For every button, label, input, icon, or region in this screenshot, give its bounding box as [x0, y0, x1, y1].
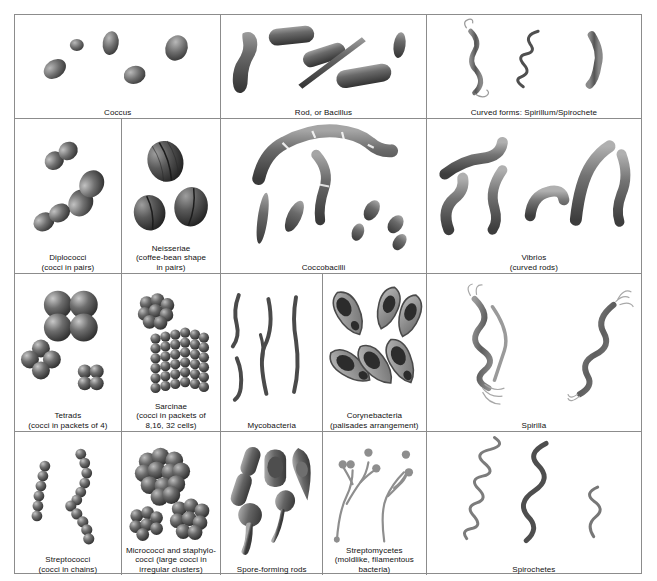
cell-spirochetes[interactable]: Spirochetes — [426, 432, 641, 575]
cell-coccobacilli[interactable]: Coccobacilli — [220, 119, 425, 273]
cell-coccus[interactable]: Coccus — [15, 15, 220, 118]
cell-label-tetrads: Tetrads (cocci in packets of 4) — [16, 411, 120, 430]
cell-streptomycetes[interactable]: Streptomycetes (moldlike, filamentous ba… — [322, 432, 426, 575]
cell-streptococci[interactable]: Streptococci (cocci in chains) — [15, 432, 121, 575]
cell-label-neisseriae: Neisseriae (coffee-bean shape in pairs) — [123, 244, 220, 272]
art-spore-rods — [221, 432, 322, 559]
cell-diplococci[interactable]: Diplococci (cocci in pairs) — [15, 119, 121, 273]
cell-label-diplococci: Diplococci (cocci in pairs) — [16, 253, 120, 272]
bacterial-morphology-chart: Coccus Rod, or Bacillu — [14, 14, 642, 574]
cell-label-micrococci: Micrococci and staphylo- cocci (large co… — [123, 546, 220, 574]
cell-label-streptococci: Streptococci (cocci in chains) — [16, 555, 120, 574]
art-curved-forms — [427, 15, 641, 102]
cell-label-spirilla: Spirilla — [428, 421, 640, 430]
art-streptomycetes — [323, 432, 426, 559]
chart-row-3: Tetrads (cocci in packets of 4) — [15, 273, 641, 431]
cell-mycobacteria[interactable]: Mycobacteria — [220, 274, 322, 431]
art-mycobacteria — [221, 274, 322, 415]
cell-label-coccus: Coccus — [16, 108, 219, 117]
art-sarcinae — [122, 274, 221, 415]
cell-sarcinae[interactable]: Sarcinae (cocci in packets of 8,16, 32 c… — [121, 274, 221, 431]
chart-row-2: Diplococci (cocci in pairs) — [15, 118, 641, 273]
cell-label-coccobacilli: Coccobacilli — [222, 263, 424, 272]
cell-label-mycobacteria: Mycobacteria — [222, 421, 321, 430]
cell-curved-forms[interactable]: Curved forms: Spirillum/Spirochete — [426, 15, 641, 118]
art-coccobacilli — [221, 119, 425, 257]
art-spirochetes — [427, 432, 641, 559]
cell-spirilla[interactable]: Spirilla — [426, 274, 641, 431]
cell-corynebacteria[interactable]: Corynebacteria (palisades arrangement) — [322, 274, 426, 431]
cell-label-curved-forms: Curved forms: Spirillum/Spirochete — [428, 108, 640, 117]
chart-row-1: Coccus Rod, or Bacillu — [15, 15, 641, 118]
art-streptococci — [15, 432, 121, 559]
art-neisseriae — [122, 119, 221, 257]
art-corynebacteria — [323, 274, 426, 415]
cell-rod-bacillus[interactable]: Rod, or Bacillus — [220, 15, 425, 118]
cell-label-spore-rods: Spore-forming rods — [222, 565, 321, 574]
cell-micrococci[interactable]: Micrococci and staphylo- cocci (large co… — [121, 432, 221, 575]
chart-row-4: Streptococci (cocci in chains) — [15, 431, 641, 575]
cell-label-streptomycetes: Streptomycetes (moldlike, filamentous ba… — [324, 546, 425, 574]
cell-spore-rods[interactable]: Spore-forming rods — [220, 432, 322, 575]
art-spirilla — [427, 274, 641, 415]
art-vibrios — [427, 119, 641, 257]
cell-label-sarcinae: Sarcinae (cocci in packets of 8,16, 32 c… — [123, 402, 220, 430]
cell-vibrios[interactable]: Vibrios (curved rods) — [426, 119, 641, 273]
art-coccus — [15, 15, 220, 102]
cell-label-vibrios: Vibrios (curved rods) — [428, 253, 640, 272]
art-tetrads — [15, 274, 121, 415]
art-micrococci — [122, 432, 221, 559]
cell-neisseriae[interactable]: Neisseriae (coffee-bean shape in pairs) — [121, 119, 221, 273]
cell-label-corynebacteria: Corynebacteria (palisades arrangement) — [324, 411, 425, 430]
cell-tetrads[interactable]: Tetrads (cocci in packets of 4) — [15, 274, 121, 431]
cell-label-spirochetes: Spirochetes — [428, 565, 640, 574]
art-rod-bacillus — [221, 15, 425, 102]
art-diplococci — [15, 119, 121, 257]
cell-label-rod-bacillus: Rod, or Bacillus — [222, 108, 424, 117]
